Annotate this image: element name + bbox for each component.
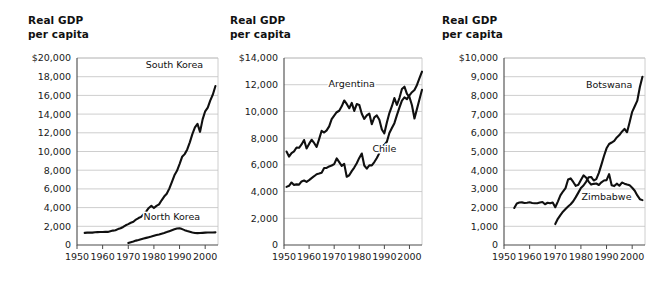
y-axis-tick-label: 9,000 (471, 71, 498, 82)
gdp-comparison-figure: Real GDP per capita $20,00018,00016,0001… (0, 0, 657, 282)
series-label-chile: Chile (372, 143, 396, 154)
series-line-north-korea (128, 228, 215, 243)
x-axis-tick-label: 2000 (193, 251, 217, 262)
y-axis-tick-label: 2,000 (44, 221, 71, 232)
y-axis-tick-label: $10,000 (459, 52, 498, 63)
chart-plot-korea: $20,00018,00016,00014,00012,00010,0008,0… (0, 0, 222, 282)
y-axis-tick-label: 12,000 (245, 79, 278, 90)
y-axis-tick-label: 6,000 (44, 183, 71, 194)
x-axis-tick-label: 1980 (569, 251, 593, 262)
x-axis-tick-label: 1990 (167, 251, 191, 262)
series-label-north-korea: North Korea (144, 211, 201, 222)
x-axis-tick-label: 1960 (91, 251, 115, 262)
x-axis-tick-label: 2000 (620, 251, 644, 262)
x-axis-tick-label: 1950 (272, 251, 296, 262)
chart-plot-southamerica: $14,00012,00010,0008,0006,0004,0002,0000… (222, 0, 434, 282)
x-axis-tick-label: 1970 (543, 251, 567, 262)
y-axis-tick-label: 1,000 (471, 221, 498, 232)
x-axis-tick-label: 1960 (297, 251, 321, 262)
y-axis-tick-label: $20,000 (32, 52, 71, 63)
y-axis-tick-label: 0 (65, 239, 71, 250)
y-axis-tick-label: 10,000 (245, 106, 278, 117)
y-axis-tick-label: 8,000 (251, 133, 278, 144)
chart-panel-southamerica: Real GDP per capita $14,00012,00010,0008… (222, 0, 434, 282)
y-axis-tick-label: 5,000 (471, 146, 498, 157)
y-axis-tick-label: 10,000 (38, 146, 71, 157)
y-axis-tick-label: 4,000 (471, 165, 498, 176)
y-axis-tick-label: 6,000 (471, 127, 498, 138)
y-axis-tick-label: 2,000 (251, 213, 278, 224)
y-axis-tick-label: 6,000 (251, 159, 278, 170)
x-axis-tick-label: 1950 (492, 251, 516, 262)
y-axis-tick-label: 12,000 (38, 127, 71, 138)
x-axis-tick-label: 1960 (518, 251, 542, 262)
x-axis-tick-label: 1980 (347, 251, 371, 262)
y-axis-tick-label: 0 (272, 239, 278, 250)
y-axis-tick-label: 8,000 (471, 90, 498, 101)
chart-panel-africa: Real GDP per capita $10,0009,0008,0007,0… (434, 0, 657, 282)
y-axis-tick-label: 18,000 (38, 71, 71, 82)
y-axis-tick-label: $14,000 (239, 52, 278, 63)
x-axis-tick-label: 1970 (116, 251, 140, 262)
y-axis-tick-label: 3,000 (471, 183, 498, 194)
x-axis-tick-label: 2000 (397, 251, 421, 262)
y-axis-tick-label: 0 (492, 239, 498, 250)
y-axis-tick-label: 8,000 (44, 165, 71, 176)
y-axis-tick-label: 2,000 (471, 202, 498, 213)
y-axis-tick-label: 16,000 (38, 90, 71, 101)
series-label-zimbabwe: Zimbabwe (582, 191, 632, 202)
x-axis-tick-label: 1980 (142, 251, 166, 262)
x-axis-tick-label: 1970 (322, 251, 346, 262)
series-label-argentina: Argentina (329, 78, 375, 89)
y-axis-tick-label: 14,000 (38, 109, 71, 120)
series-label-botswana: Botswana (586, 79, 632, 90)
y-axis-tick-label: 4,000 (44, 202, 71, 213)
y-axis-tick-label: 4,000 (251, 186, 278, 197)
chart-plot-africa: $10,0009,0008,0007,0006,0005,0004,0003,0… (434, 0, 657, 282)
x-axis-tick-label: 1990 (372, 251, 396, 262)
series-label-south-korea: South Korea (146, 59, 204, 70)
series-line-argentina (287, 87, 422, 157)
y-axis-tick-label: 7,000 (471, 109, 498, 120)
x-axis-tick-label: 1990 (594, 251, 618, 262)
x-axis-tick-label: 1950 (65, 251, 89, 262)
chart-panel-korea: Real GDP per capita $20,00018,00016,0001… (0, 0, 222, 282)
